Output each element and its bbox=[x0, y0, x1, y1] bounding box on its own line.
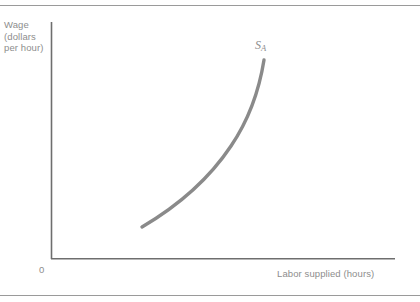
figure-container: Wage (dollars per hour) Labor supplied (… bbox=[0, 0, 420, 302]
y-axis-label: Wage (dollars per hour) bbox=[4, 19, 43, 54]
curve-label-subscript: A bbox=[261, 43, 266, 53]
y-axis-label-line-2: (dollars bbox=[4, 31, 36, 42]
x-axis-label: Labor supplied (hours) bbox=[277, 268, 374, 280]
y-axis-label-line-3: per hour) bbox=[4, 42, 43, 53]
supply-curve-sa bbox=[142, 60, 264, 227]
plot-area bbox=[0, 0, 420, 302]
y-axis-label-line-1: Wage bbox=[4, 19, 29, 30]
curve-label-sa: SA bbox=[255, 39, 266, 54]
origin-label: 0 bbox=[39, 264, 44, 276]
